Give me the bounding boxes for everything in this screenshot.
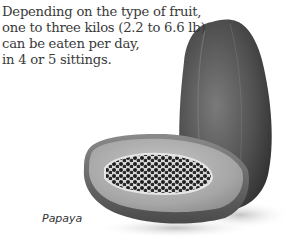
description-line: one to three kilos (2.2 to 6.6 lb) [2, 20, 205, 36]
caption: Papaya [42, 212, 82, 225]
description-text: Depending on the type of fruit, one to t… [2, 4, 205, 68]
description-line: can be eaten per day, [2, 36, 205, 52]
description-line: in 4 or 5 sittings. [2, 52, 205, 68]
description-line: Depending on the type of fruit, [2, 4, 205, 20]
